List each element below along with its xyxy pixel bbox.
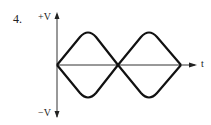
- y-axis-down-arrow-icon: [55, 111, 60, 118]
- y-axis-up-arrow-icon: [55, 12, 60, 19]
- x-axis-arrow-icon: [189, 63, 197, 68]
- waveform-diagram: [0, 0, 211, 125]
- lower-waveform: [57, 65, 181, 98]
- upper-waveform: [57, 33, 181, 66]
